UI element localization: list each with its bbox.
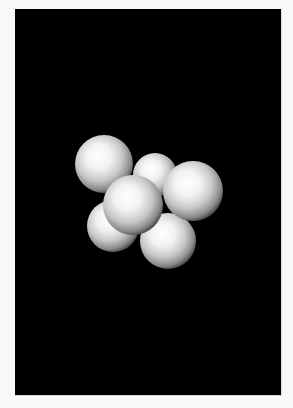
sphere-right: [163, 161, 223, 221]
sphere-center-front: [103, 175, 163, 235]
render-viewport: [15, 9, 282, 396]
molecule-cluster: [75, 135, 223, 269]
sphere-cluster-render: [15, 9, 281, 395]
image-frame: [0, 0, 293, 408]
